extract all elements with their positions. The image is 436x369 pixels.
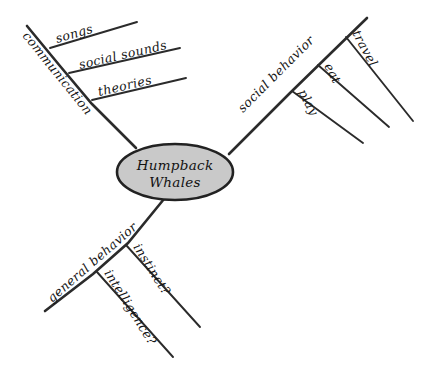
- twig-label-theories: theories: [96, 72, 153, 99]
- twig-line-travel: [346, 37, 413, 121]
- twig-label-instinct: instinct?: [130, 241, 173, 298]
- twig-songs[interactable]: songs: [50, 21, 137, 48]
- twig-social-sounds[interactable]: social sounds: [69, 37, 180, 73]
- branch-communication[interactable]: songs social sounds theories communicati…: [20, 21, 186, 148]
- center-node-label-line-1: Humpback: [136, 157, 214, 173]
- twig-theories[interactable]: theories: [92, 72, 186, 100]
- center-node[interactable]: Humpback Whales: [117, 144, 233, 200]
- twig-label-songs: songs: [54, 21, 95, 46]
- twig-label-social-sounds: social sounds: [77, 37, 168, 72]
- twig-label-eat: eat: [321, 60, 344, 86]
- mind-map-canvas: songs social sounds theories communicati…: [0, 0, 436, 369]
- center-node-label-line-2: Whales: [149, 174, 201, 190]
- mind-map-drawing: songs social sounds theories communicati…: [0, 0, 436, 369]
- branch-general-behavior[interactable]: instinct? intelligence? general behavior: [44, 199, 200, 357]
- twig-travel[interactable]: travel: [346, 27, 413, 121]
- branch-social-behavior[interactable]: play eat travel social behavior: [229, 18, 413, 154]
- twig-label-play: play: [295, 86, 322, 118]
